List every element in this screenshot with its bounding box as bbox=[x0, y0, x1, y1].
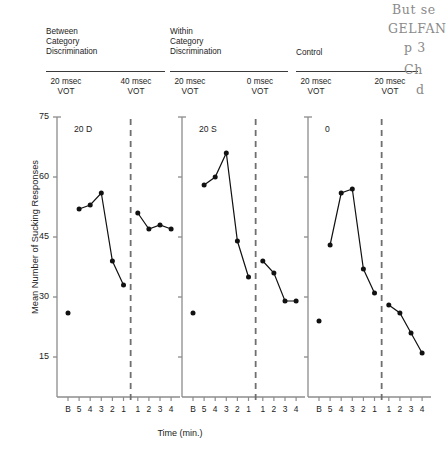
x-tick-label: 4 bbox=[336, 404, 346, 414]
x-tick-label: B bbox=[188, 404, 198, 414]
x-tick-label: 2 bbox=[395, 404, 405, 414]
x-tick-label: 4 bbox=[166, 404, 176, 414]
x-tick-label: 1 bbox=[133, 404, 143, 414]
x-tick-label: 4 bbox=[85, 404, 95, 414]
x-tick-label: B bbox=[314, 404, 324, 414]
y-tick-label: 75 bbox=[23, 111, 49, 121]
figure-canvas: Between Category Discrimination Within C… bbox=[0, 0, 447, 453]
y-tick-label: 15 bbox=[23, 351, 49, 361]
x-tick-label: 3 bbox=[221, 404, 231, 414]
x-tick-label: 2 bbox=[107, 404, 117, 414]
y-tick-label: 30 bbox=[23, 291, 49, 301]
x-tick-label: 1 bbox=[119, 404, 129, 414]
x-tick-label: 2 bbox=[358, 404, 368, 414]
x-tick-label: 4 bbox=[417, 404, 427, 414]
x-tick-label: 1 bbox=[258, 404, 268, 414]
x-tick-label: 3 bbox=[155, 404, 165, 414]
x-tick-label: 4 bbox=[210, 404, 220, 414]
x-tick-label: 1 bbox=[384, 404, 394, 414]
plot-svg bbox=[0, 0, 447, 453]
x-tick-label: 2 bbox=[269, 404, 279, 414]
x-tick-label: 5 bbox=[199, 404, 209, 414]
x-tick-label: 3 bbox=[96, 404, 106, 414]
x-tick-label: B bbox=[63, 404, 73, 414]
x-tick-label: 1 bbox=[370, 404, 380, 414]
x-tick-label: 1 bbox=[244, 404, 254, 414]
x-tick-label: 5 bbox=[325, 404, 335, 414]
x-tick-label: 3 bbox=[406, 404, 416, 414]
y-tick-label: 60 bbox=[23, 171, 49, 181]
y-tick-label: 45 bbox=[23, 231, 49, 241]
x-tick-label: 3 bbox=[280, 404, 290, 414]
x-tick-label: 3 bbox=[347, 404, 357, 414]
x-tick-label: 2 bbox=[144, 404, 154, 414]
x-tick-label: 5 bbox=[74, 404, 84, 414]
x-tick-label: 4 bbox=[291, 404, 301, 414]
x-tick-label: 2 bbox=[232, 404, 242, 414]
